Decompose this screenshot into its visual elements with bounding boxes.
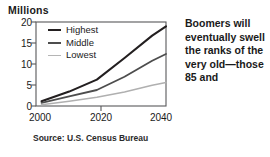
source-note: Source: U.S. Census Bureau: [33, 133, 148, 143]
x-axis-tick-labels: 2000 2020 2040: [0, 112, 180, 126]
legend-label-middle: Middle: [66, 38, 94, 48]
legend-item-middle: Middle: [48, 37, 118, 50]
caption-text: Boomers will eventually swell the ranks …: [185, 17, 269, 85]
chart-legend: Highest Middle Lowest: [48, 24, 118, 62]
legend-line-swatch-lowest: [48, 55, 61, 56]
legend-line-swatch-middle: [48, 42, 61, 44]
legend-item-lowest: Lowest: [48, 49, 118, 62]
legend-line-swatch-highest: [48, 29, 61, 31]
x-tick-label-2040: 2040: [150, 112, 172, 123]
legend-item-highest: Highest: [48, 24, 118, 37]
caption-block: Boomers will eventually swell the ranks …: [185, 17, 269, 85]
legend-label-lowest: Lowest: [66, 50, 96, 60]
y-axis-ticks: [31, 22, 36, 106]
x-tick-label-2020: 2020: [90, 112, 112, 123]
y-axis-unit-label: Millions: [8, 4, 49, 16]
x-tick-label-2000: 2000: [29, 112, 51, 123]
chart-area: Millions 20 15 10 5 0: [0, 0, 180, 157]
chart-figure: Millions 20 15 10 5 0: [0, 0, 270, 157]
legend-label-highest: Highest: [66, 25, 98, 35]
